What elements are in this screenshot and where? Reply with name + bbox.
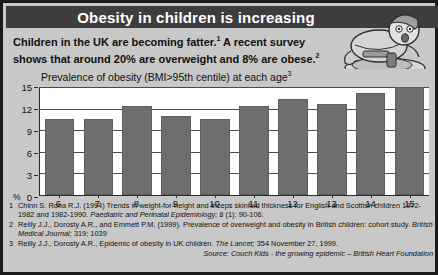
reference-text: Reilly J.J., Dorosty A.R., Epidemic of o… (18, 239, 435, 248)
bar-slot (390, 87, 429, 195)
reference-text: Chinn S. Rona R.J. (1994) Trends in weig… (18, 201, 435, 220)
chart-bar-age-10 (200, 119, 230, 195)
chart-bar-age-11 (239, 106, 269, 195)
intro-line2-a: shows that around 20% are overweight and… (13, 52, 316, 64)
chart-bar-age-12 (278, 99, 308, 195)
y-axis: % 03691215 (11, 87, 38, 197)
y-tick-mark (34, 87, 38, 88)
page-title: Obesity in children is increasing (77, 9, 367, 26)
y-tick-label: 12 (21, 104, 32, 115)
bar-slot (157, 87, 196, 195)
chart-bar-age-13 (317, 104, 347, 195)
chart-bar-age-7 (84, 119, 114, 195)
source-credit: Source: Couch Kids - the growing epidemi… (9, 249, 435, 258)
bar-slot (273, 87, 312, 195)
y-tick-mark (34, 153, 38, 154)
y-tick-label: 3 (27, 170, 32, 181)
y-tick-mark (34, 109, 38, 110)
y-tick-label: 9 (27, 126, 32, 137)
intro-text: Children in the UK are becoming fatter.1… (13, 32, 333, 65)
reference-item: 3Reilly J.J., Dorosty A.R., Epidemic of … (9, 239, 435, 248)
y-tick-label: 15 (21, 82, 32, 93)
reference-number: 1 (9, 201, 18, 220)
y-tick-label: 6 (27, 148, 32, 159)
bar-slot (118, 87, 157, 195)
y-tick-mark (34, 175, 38, 176)
chart-title-text: Prevalence of obesity (BMI>95th centile)… (41, 71, 288, 83)
chart-title-ref: 3 (288, 70, 292, 77)
intro-ref-2: 2 (316, 52, 320, 59)
infographic-poster: Obesity in children is increasing Childr… (0, 0, 438, 275)
chart-bar-age-14 (356, 93, 386, 195)
bar-slot (235, 87, 274, 195)
bar-slot (351, 87, 390, 195)
chart-bar-age-6 (45, 119, 75, 195)
bar-slot (312, 87, 351, 195)
chart-bar-age-9 (161, 116, 191, 195)
references-list: 1Chinn S. Rona R.J. (1994) Trends in wei… (9, 201, 435, 273)
y-tick-mark (34, 131, 38, 132)
chart-bars (40, 87, 429, 195)
intro-line1-a: Children in the UK are becoming fatter. (13, 36, 217, 48)
y-tick-mark (34, 197, 38, 198)
reference-item: 2Reilly J.J., Dorosty A.R., and Emmett P… (9, 220, 435, 239)
chart-bar-age-15 (395, 87, 425, 195)
chart-bar-age-8 (122, 106, 152, 195)
reference-text: Reilly J.J., Dorosty A.R., and Emmett P.… (18, 220, 435, 239)
reference-number: 2 (9, 220, 18, 239)
obesity-prevalence-chart: Prevalence of obesity (BMI>95th centile)… (11, 69, 433, 201)
bar-slot (40, 87, 79, 195)
reference-number: 3 (9, 239, 18, 248)
intro-line1-b: A recent survey (220, 36, 305, 48)
bar-slot (79, 87, 118, 195)
chart-title: Prevalence of obesity (BMI>95th centile)… (41, 70, 292, 83)
reference-item: 1Chinn S. Rona R.J. (1994) Trends in wei… (9, 201, 435, 220)
bar-slot (196, 87, 235, 195)
chart-plot-area (39, 87, 429, 196)
